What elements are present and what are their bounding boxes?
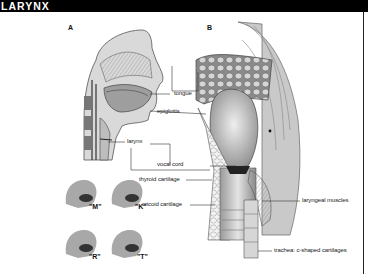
label-trachea: trachea: c-shaped cartilages (274, 247, 347, 253)
label-tongue: tongue (174, 90, 192, 96)
phoneme-label-r: "R" (89, 253, 101, 260)
panel-label-b: B (207, 24, 212, 31)
label-thyroid-cartilage: thyroid cartilage (139, 176, 180, 182)
label-laryngeal-muscles: laryngeal muscles (302, 197, 348, 203)
panel-label-a: A (68, 24, 73, 31)
phoneme-heads (66, 180, 143, 258)
label-cricoid-cartilage: cricoid cartilage (142, 201, 182, 207)
label-epiglottis: epiglottis (157, 108, 180, 114)
label-larynx: larynx (127, 138, 142, 144)
phoneme-label-m: "M" (89, 203, 101, 210)
phoneme-label-k: "K" (135, 203, 147, 210)
anatomy-illustration (0, 0, 368, 274)
larynx-posterior-view (196, 22, 300, 258)
sagittal-head-section (84, 30, 163, 160)
phoneme-label-t: "T" (137, 253, 148, 260)
label-vocal-cord: vocal cord (157, 161, 183, 167)
